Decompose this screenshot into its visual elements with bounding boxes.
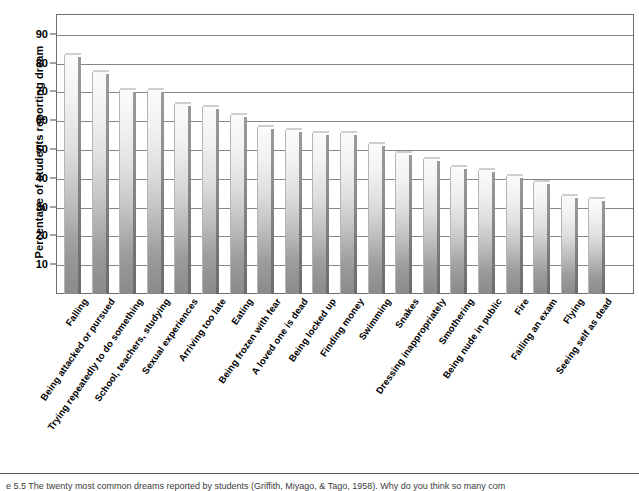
x-tick-label: Snakes [392, 296, 420, 330]
bar [533, 182, 547, 294]
bar [478, 170, 492, 294]
caption-divider [0, 473, 639, 474]
bar [450, 167, 464, 294]
bar [340, 133, 354, 294]
y-tick-label: 50 [18, 143, 48, 155]
bar [202, 107, 216, 294]
bar [257, 127, 271, 294]
y-tick-label: 90 [18, 28, 48, 40]
bar [119, 90, 133, 294]
bar [174, 104, 188, 294]
bar [561, 196, 575, 294]
bar [230, 115, 244, 294]
x-tick-label: Flying [561, 296, 586, 326]
bar [588, 199, 602, 294]
x-tick-label: Fire [512, 296, 531, 317]
dream-frequency-bar-chart: Percentage of students reporting dream 9… [0, 0, 639, 491]
y-tick-label: 80 [18, 57, 48, 69]
x-axis-labels: FallingBeing attacked or pursuedTrying r… [0, 296, 639, 466]
x-tick-label: Falling [63, 296, 90, 328]
bar [368, 144, 382, 294]
figure-caption: e 5.5 The twenty most common dreams repo… [6, 481, 639, 491]
bar [285, 130, 299, 294]
bar [395, 153, 409, 294]
bar-series [56, 14, 634, 294]
bar [64, 55, 78, 294]
bar [312, 133, 326, 294]
bar [506, 176, 520, 294]
y-tick-label: 10 [18, 258, 48, 270]
x-tick-label: Seeing self as dead [553, 296, 614, 376]
y-tick-label: 30 [18, 201, 48, 213]
y-tick-label: 60 [18, 114, 48, 126]
bar [92, 72, 106, 294]
y-tick-label: 40 [18, 172, 48, 184]
y-tick-label: 20 [18, 229, 48, 241]
x-tick-label: Eating [229, 296, 255, 327]
bar [147, 90, 161, 294]
bar [423, 159, 437, 294]
y-tick-label: 70 [18, 85, 48, 97]
